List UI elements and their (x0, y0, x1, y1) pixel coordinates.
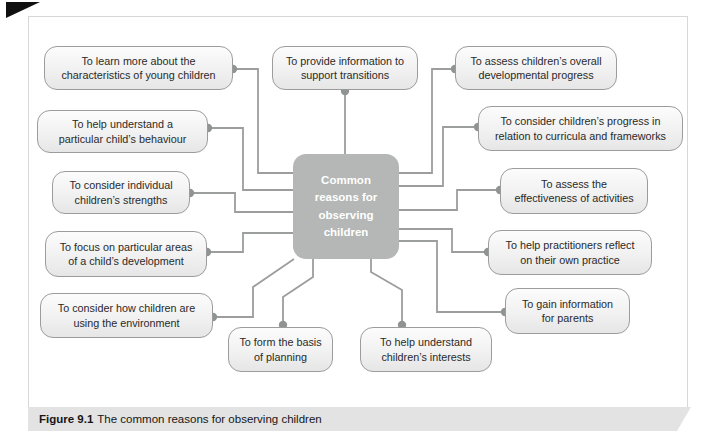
connector-line (397, 127, 478, 186)
label-line: characteristics of young children (61, 68, 215, 82)
reason-box-focus-areas: To focus on particular areas of a child’… (45, 231, 207, 277)
label-line: To help understand (380, 335, 472, 349)
reason-box-practitioners-reflect: To help practitioners reflect on their o… (488, 230, 652, 275)
label-line: To consider children’s progress in (500, 114, 660, 128)
label-line: children’s strengths (75, 193, 168, 207)
label-line: children’s interests (381, 350, 470, 364)
label-line: for parents (542, 311, 594, 325)
label-line: Common (321, 172, 371, 189)
label-line: on their own practice (520, 253, 620, 267)
label-line: of a child’s development (68, 254, 184, 268)
label-line: To provide information to (286, 54, 404, 68)
reason-box-form-basis-planning: To form the basis of planning (228, 327, 333, 372)
label-line: To form the basis (239, 335, 321, 349)
connector-line (213, 259, 294, 317)
center-box: Common reasons for observing children (293, 154, 399, 259)
reason-box-assess-effectiveness: To assess the effectiveness of activitie… (500, 168, 648, 214)
label-line: To gain information (522, 297, 613, 311)
label-line: To assess the (541, 177, 607, 191)
reason-box-assess-overall: To assess children’s overall development… (455, 46, 617, 90)
connector-line (208, 128, 294, 190)
label-line: relation to curricula and frameworks (495, 129, 666, 143)
connector-line (397, 190, 500, 210)
figure-caption-text: The common reasons for observing childre… (97, 413, 321, 425)
label-line: effectiveness of activities (514, 191, 633, 205)
connector-line (190, 193, 294, 212)
label-line: using the environment (73, 316, 179, 330)
caption-band: Figure 9.1 The common reasons for observ… (28, 407, 691, 431)
label-line: To help practitioners reflect (505, 238, 634, 252)
reason-box-understand-interests: To help understand children’s interests (360, 327, 492, 372)
label-line: reasons for (315, 189, 378, 206)
label-line: To learn more about the (81, 54, 195, 68)
label-line: of planning (254, 350, 307, 364)
label-line: To help understand a (72, 117, 173, 131)
connector-line (371, 258, 402, 326)
label-line: To consider how children are (58, 301, 195, 315)
label-line: children (324, 224, 369, 241)
label-line: observing (319, 207, 374, 224)
label-line: developmental progress (478, 68, 593, 82)
reason-box-consider-strengths: To consider individual children’s streng… (52, 171, 190, 214)
label-line: particular child’s behaviour (59, 132, 187, 146)
label-line: To focus on particular areas (60, 240, 193, 254)
reason-box-consider-progress: To consider children’s progress in relat… (478, 106, 683, 151)
connector-line (207, 233, 294, 252)
reason-box-learn-more: To learn more about the characteristics … (44, 46, 233, 90)
connector-line (283, 258, 313, 326)
label-line: support transitions (301, 68, 389, 82)
figure-caption-label: Figure 9.1 (39, 413, 93, 425)
label-line: To consider individual (69, 178, 172, 192)
figure-page: To learn more about the characteristics … (0, 0, 717, 447)
reason-box-consider-environment: To consider how children are using the e… (40, 293, 213, 338)
label-line: To assess children’s overall (470, 54, 601, 68)
reason-box-understand-behaviour: To help understand a particular child’s … (37, 110, 208, 153)
reason-box-provide-information: To provide information to support transi… (272, 46, 418, 90)
reason-box-gain-information: To gain information for parents (505, 288, 630, 334)
